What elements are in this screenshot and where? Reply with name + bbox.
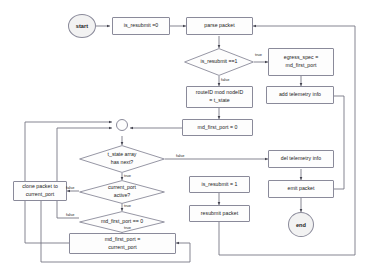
node-is-resubmit-set[interactable]: is_resubmit = 1 <box>189 176 250 193</box>
edge-label-resubmit-false: false <box>221 77 229 82</box>
node-clone-packet-label-line2: current_port <box>26 191 55 199</box>
edge-label-array-true: true <box>124 173 131 178</box>
node-end-label: end <box>296 222 306 228</box>
node-parse-packet[interactable]: parse packet <box>186 17 253 35</box>
edge-label-active-false: false <box>66 185 74 190</box>
node-is-resubmit-init[interactable]: is_resubmit =0 <box>112 17 170 35</box>
edge-addtel-to-emit <box>318 96 344 189</box>
node-current-port-active-check[interactable]: current_port active? <box>79 180 165 204</box>
node-del-telemetry-label: del telemetry info <box>281 155 321 163</box>
diamond-shape <box>184 48 254 76</box>
node-is-resubmit-init-label: is_resubmit =0 <box>124 22 159 30</box>
diamond-shape <box>79 145 165 173</box>
node-resubmit-packet-label: resubmit packet <box>201 210 238 218</box>
node-start[interactable]: start <box>68 14 96 38</box>
node-start-label: start <box>76 23 89 29</box>
node-route-state-label-line1: routeID mod nodeID <box>196 89 244 97</box>
node-md-first-port-check[interactable]: md_first_port == 0 <box>79 211 165 233</box>
node-is-resubmit-check[interactable]: is_resubmit ==1 <box>184 48 254 76</box>
node-md-first-port-assign[interactable]: md_first_port = current_port <box>69 233 176 254</box>
node-add-telemetry-label: add telemetry info <box>279 91 321 99</box>
edge-mdcheck-false-to-junction <box>57 128 112 218</box>
node-egress-spec-label-line1: egress_spec = <box>284 54 319 62</box>
flowchart-canvas: start is_resubmit =0 parse packet is_res… <box>0 0 365 271</box>
node-emit-packet-label: emit packet <box>287 185 314 193</box>
node-clone-packet[interactable]: clone packet to current_port <box>13 181 67 201</box>
node-resubmit-packet[interactable]: resubmit packet <box>189 205 250 222</box>
edge-label-array-false: false <box>176 153 184 158</box>
node-parse-packet-label: parse packet <box>204 22 234 30</box>
node-egress-spec-label-line2: md_first_port <box>286 62 317 70</box>
edge-label-resubmit-true: true <box>255 52 262 57</box>
edge-label-first-port-true: true <box>124 225 131 230</box>
node-del-telemetry[interactable]: del telemetry info <box>268 150 334 168</box>
node-t-state-array-check[interactable]: t_state array has next? <box>79 145 165 173</box>
diamond-shape <box>79 180 165 204</box>
node-merge-junction <box>116 119 128 131</box>
node-egress-spec[interactable]: egress_spec = md_first_port <box>268 48 334 76</box>
edge-label-first-port-false: false <box>66 212 74 217</box>
node-md-first-port-zero[interactable]: md_first_port = 0 <box>182 119 253 136</box>
edge-label-active-true: true <box>124 203 131 208</box>
node-md-first-port-assign-label-line2: current_port <box>108 244 137 252</box>
node-md-first-port-assign-label-line1: md_first_port = <box>105 236 141 244</box>
node-add-telemetry[interactable]: add telemetry info <box>266 86 334 104</box>
node-clone-packet-label-line1: clone packet to <box>22 183 58 191</box>
node-is-resubmit-set-label: is_resubmit = 1 <box>201 181 237 189</box>
node-route-state-label-line2: = t_state <box>209 97 230 105</box>
node-emit-packet[interactable]: emit packet <box>268 180 334 198</box>
node-route-state[interactable]: routeID mod nodeID = t_state <box>186 86 253 108</box>
node-end[interactable]: end <box>288 212 314 237</box>
node-md-first-port-zero-label: md_first_port = 0 <box>198 124 238 132</box>
diamond-shape <box>79 211 165 233</box>
